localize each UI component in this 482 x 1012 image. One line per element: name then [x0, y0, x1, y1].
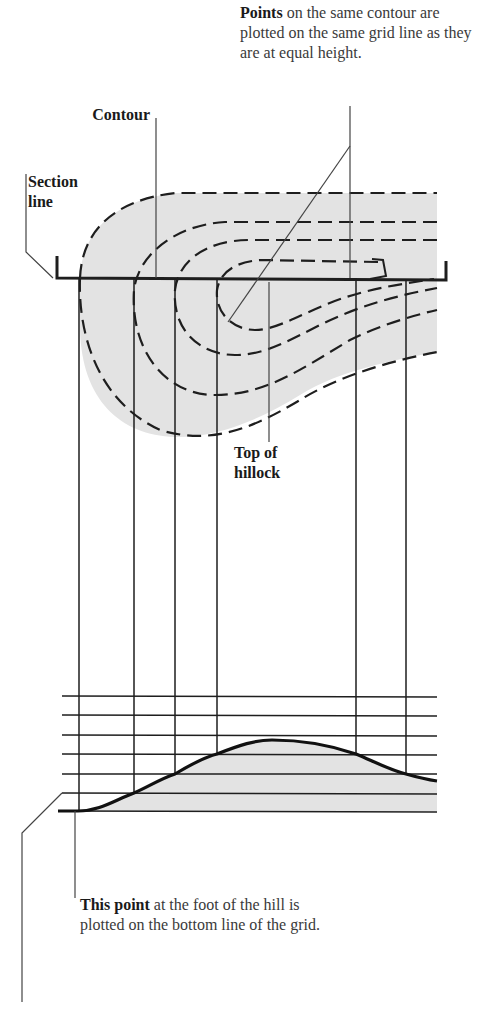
section-line-annotation-line1: Section [28, 173, 78, 190]
top-of-hillock-line1: Top of [234, 444, 277, 461]
points-annotation: Points on the same contour are plotted o… [240, 3, 480, 63]
contour-profile-diagram [0, 0, 482, 1012]
this-point-annotation-bold: This point [80, 896, 150, 913]
top-of-hillock-line2: hillock [234, 464, 280, 481]
section-line-annotation-line2: line [28, 193, 53, 210]
this-point-annotation: This point at the foot of the hill is pl… [80, 895, 320, 935]
contour-annotation-bold: Contour [92, 106, 150, 123]
contour-annotation: Contour [70, 105, 150, 125]
top-of-hillock-annotation: Top of hillock [234, 443, 324, 483]
section-line-annotation: Section line [28, 172, 108, 212]
profile-fill [78, 740, 437, 811]
points-annotation-bold: Points [240, 4, 283, 21]
